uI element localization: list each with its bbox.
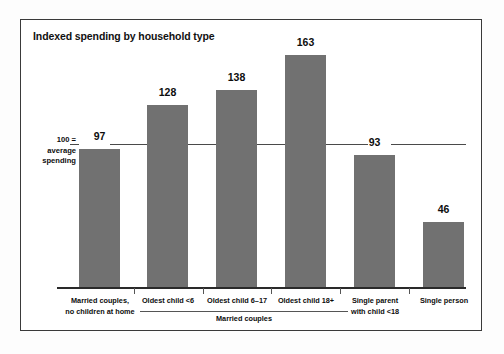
reference-line-label-line2: average — [26, 146, 76, 157]
bar-single-person[interactable] — [423, 222, 464, 287]
category-label-line2: no children at home — [51, 307, 149, 318]
chart-page: Indexed spending by household type 100 =… — [0, 0, 504, 354]
reference-line-label-line3: spending — [26, 156, 76, 167]
bar-value-label: 138 — [216, 71, 257, 83]
group-bracket-line — [140, 311, 348, 312]
bar-value-label: 128 — [147, 86, 188, 98]
x-axis-baseline — [57, 287, 466, 289]
reference-line-segment — [110, 144, 147, 145]
bar-oldest-child-18-plus[interactable] — [285, 55, 326, 287]
bar-oldest-child-under-6[interactable] — [147, 105, 188, 287]
axis-tick — [203, 288, 204, 294]
bar-value-label: 163 — [285, 36, 326, 48]
reference-line-label: 100 = average spending — [26, 135, 76, 167]
category-label-line1: Single person — [395, 296, 493, 307]
axis-tick — [409, 288, 410, 294]
bar-oldest-child-6-17[interactable] — [216, 90, 257, 287]
bar-single-parent-child-under-18[interactable] — [354, 155, 395, 287]
bar-married-no-children[interactable] — [79, 149, 120, 287]
axis-tick — [134, 288, 135, 294]
group-bracket-label: Married couples — [140, 314, 348, 323]
bar-value-label: 93 — [354, 136, 395, 148]
plot-area: 100 = average spending 97 128 138 163 93… — [0, 0, 504, 354]
bar-value-label: 46 — [423, 203, 464, 215]
bar-value-label: 97 — [79, 130, 120, 142]
axis-tick — [340, 288, 341, 294]
reference-line-segment — [391, 144, 466, 145]
reference-line-label-line1: 100 = — [26, 135, 76, 146]
axis-tick — [271, 288, 272, 294]
category-label-single-person: Single person — [395, 296, 493, 307]
